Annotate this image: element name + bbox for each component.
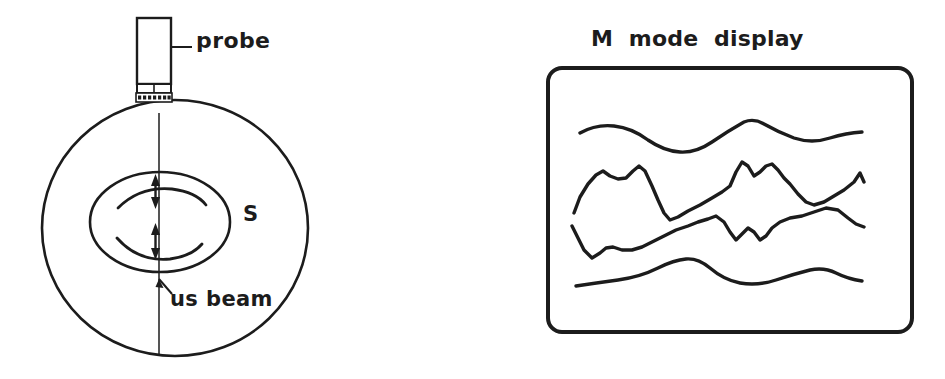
probe-label: probe: [196, 30, 270, 52]
structure-arc-upper: [118, 189, 206, 208]
probe-body: [137, 18, 171, 84]
body-outline-ellipse: [42, 100, 308, 356]
structure-s-label: S: [243, 204, 258, 225]
m-mode-screen-drawing: [472, 0, 945, 379]
m-mode-screen-border: [548, 68, 912, 332]
us-beam-label: us beam: [170, 289, 273, 310]
scan-schematic-panel: probe us beam S: [0, 0, 472, 379]
structure-outline-ellipse: [90, 172, 230, 272]
scan-schematic-drawing: [0, 0, 472, 379]
m-mode-display-panel: M mode display: [472, 0, 945, 379]
probe-coupling-layer: [136, 93, 172, 102]
ultrasound-m-mode-figure: probe us beam S M mode display: [0, 0, 945, 379]
m-mode-display-title: M mode display: [591, 28, 804, 50]
